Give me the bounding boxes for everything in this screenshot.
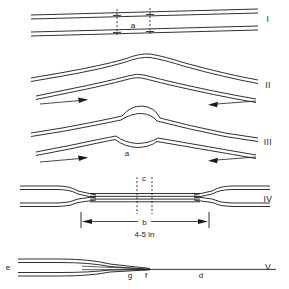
- panel-4-label-b: b: [142, 218, 147, 227]
- panel-3-arrow-right: [208, 157, 256, 163]
- panel-4-group: c b 4-5 in IV: [20, 174, 272, 239]
- panel-2-strand-lower-b: [36, 78, 256, 103]
- panel-5-label-e: e: [6, 263, 11, 272]
- panel-5-label-d: d: [199, 271, 203, 280]
- panel-numeral-iii: III: [264, 137, 272, 147]
- panel-1-label-a: a: [131, 21, 136, 30]
- panel-3-arrow-left: [40, 156, 88, 162]
- panel-3-strand-upper-a: [31, 106, 258, 138]
- panel-1-group: a I: [31, 8, 269, 36]
- panel-2-arrow-right-head: [208, 102, 218, 107]
- panel-5-group: e g f d V: [6, 259, 276, 280]
- panel-2-strand-upper-b: [31, 57, 258, 83]
- panel-5-label-g: g: [128, 271, 132, 280]
- panel-4-dimension-value: 4-5 in: [134, 230, 154, 239]
- panel-4-right-upper-a: [194, 186, 270, 195]
- technical-diagram: a I II: [0, 0, 289, 289]
- panel-2-group: II: [31, 54, 271, 107]
- panel-2-arrow-left: [40, 98, 88, 104]
- panel-4-left-upper-a: [20, 186, 96, 195]
- panel-2-strand-lower-a: [36, 74, 256, 99]
- panel-3-label-a: a: [125, 149, 130, 158]
- panel-3-strand-lower-a: [36, 136, 256, 155]
- panel-numeral-i: I: [267, 14, 270, 24]
- panel-numeral-v: V: [265, 262, 271, 272]
- panel-4-left-upper-b: [20, 190, 96, 199]
- panel-5-upper-a: [18, 259, 150, 269]
- panel-3-arrow-right-head: [208, 158, 218, 163]
- panel-4-label-c: c: [142, 174, 146, 183]
- panel-4-dim-arrow-right: [198, 219, 208, 224]
- panel-3-arrow-left-head: [78, 156, 88, 161]
- panel-4-right-upper-b: [194, 190, 270, 199]
- figure-container: a I II: [0, 0, 289, 289]
- panel-3-group: a III: [31, 106, 272, 163]
- panel-2-arrow-right: [208, 101, 256, 107]
- panel-numeral-ii: II: [265, 80, 271, 90]
- panel-4-dim-arrow-left: [82, 219, 92, 224]
- panel-2-arrow-left-head: [78, 98, 88, 103]
- panel-5-label-f: f: [145, 271, 148, 280]
- panel-numeral-iv: IV: [264, 194, 273, 204]
